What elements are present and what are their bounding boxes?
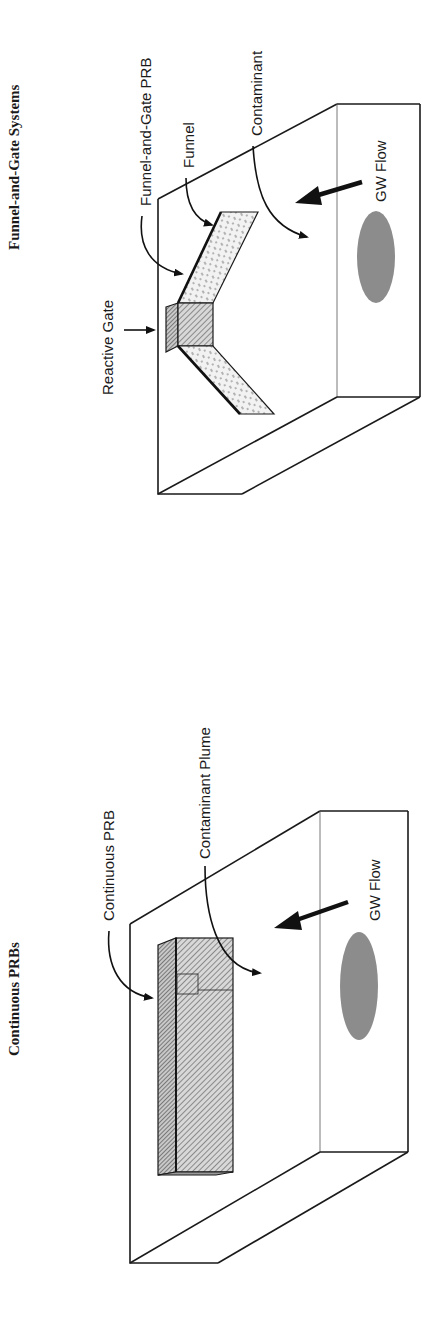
continuous-barrier — [158, 938, 233, 1175]
funnel-and-gate-prb-label: Funnel-and-Gate PRB — [137, 58, 154, 206]
funnel-leader — [186, 178, 212, 225]
contaminant-plume-ellipse-2 — [340, 932, 378, 1040]
contaminant-plume-label: Contaminant Plume — [196, 727, 213, 859]
gw-flow-label-1: GW Flow — [372, 140, 389, 202]
reactive-gate — [166, 303, 213, 352]
continuous-prb-panel: Continuous PRBs — [6, 727, 408, 1263]
funnel-and-gate-title: Funnel-and-Gate Systems — [6, 84, 22, 250]
funnel-label: Funnel — [180, 122, 197, 168]
contaminant-plume-ellipse — [357, 211, 395, 303]
contaminant-leader — [253, 146, 307, 237]
funnel-and-gate-panel: Funnel-and-Gate Systems — [6, 50, 420, 494]
gw-flow-arrow — [295, 182, 362, 205]
funnel-and-gate-prb-leader — [141, 216, 182, 274]
prb-diagram-figure: Funnel-and-Gate Systems — [0, 0, 447, 1343]
contaminant-label: Contaminant — [248, 50, 265, 136]
funnel-upper-arm — [178, 212, 258, 303]
gw-flow-arrow-2 — [274, 902, 348, 930]
continuous-prb-title: Continuous PRBs — [6, 942, 22, 1056]
funnel-lower-arm — [178, 346, 274, 414]
gw-flow-label-2: GW Flow — [366, 859, 383, 921]
reactive-gate-label: Reactive Gate — [99, 300, 116, 395]
continuous-prb-label: Continuous PRB — [100, 810, 117, 921]
